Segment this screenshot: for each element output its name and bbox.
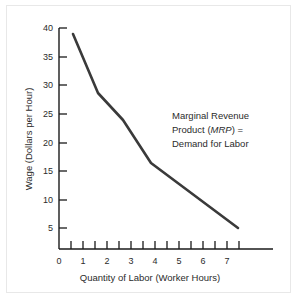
- x-tick-label: 5: [176, 256, 181, 266]
- x-axis-title: Quantity of Labor (Worker Hours): [80, 272, 220, 283]
- y-tick-label: 15: [43, 166, 53, 176]
- x-tick-label: 0: [56, 256, 61, 266]
- x-tick-label: 3: [128, 256, 133, 266]
- annotation-line-3: Demand for Labor: [172, 138, 249, 149]
- y-tick-label: 5: [48, 223, 53, 233]
- y-tick-label: 25: [43, 109, 53, 119]
- x-tick-label: 7: [224, 256, 229, 266]
- x-tick-label: 4: [152, 256, 157, 266]
- y-axis-ticks: [59, 28, 67, 228]
- chart-figure: 40 35 30 25 20 15 10 5: [0, 0, 304, 300]
- y-axis-tick-labels: 40 35 30 25 20 15 10 5: [43, 23, 53, 233]
- y-tick-label: 30: [43, 80, 53, 90]
- plot-area: 40 35 30 25 20 15 10 5: [0, 0, 304, 300]
- curve-annotation: Marginal Revenue Product (MRP) = Demand …: [172, 110, 249, 149]
- annotation-line-2: Product (MRP) =: [172, 124, 243, 135]
- x-axis-major-ticks: [83, 241, 227, 249]
- y-axis-title: Wage (Dollars per Hour): [23, 88, 34, 191]
- x-tick-label: 1: [80, 256, 85, 266]
- x-tick-label: 2: [104, 256, 109, 266]
- y-tick-label: 20: [43, 138, 53, 148]
- annotation-line-2-prefix: Product (: [172, 124, 211, 135]
- x-tick-label: 6: [200, 256, 205, 266]
- annotation-mrp-italic: MRP: [211, 124, 233, 135]
- annotation-line-1: Marginal Revenue: [172, 110, 249, 121]
- y-tick-label: 40: [43, 23, 53, 33]
- y-tick-label: 10: [43, 195, 53, 205]
- y-tick-label: 35: [43, 52, 53, 62]
- annotation-line-2-suffix: ) =: [232, 124, 244, 135]
- x-axis-tick-labels: 0 1 2 3 4 5 6 7: [56, 256, 229, 266]
